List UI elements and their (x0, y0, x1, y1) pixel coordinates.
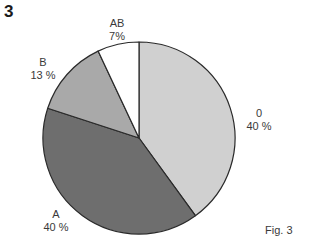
slice-label-ab: AB 7% (97, 17, 137, 43)
slice-label-ab-percent: 7% (97, 30, 137, 43)
slice-label-0-percent: 40 % (239, 120, 279, 133)
slice-label-a-name: A (36, 208, 76, 221)
slice-label-0: 0 40 % (239, 107, 279, 133)
slice-label-0-name: 0 (239, 107, 279, 120)
slice-label-a-percent: 40 % (36, 221, 76, 234)
slice-label-b-name: B (23, 56, 63, 69)
figure-caption: Fig. 3 (265, 224, 293, 236)
slice-label-b-percent: 13 % (23, 69, 63, 82)
slice-label-a: A 40 % (36, 208, 76, 234)
slice-label-b: B 13 % (23, 56, 63, 82)
slice-label-ab-name: AB (97, 17, 137, 30)
